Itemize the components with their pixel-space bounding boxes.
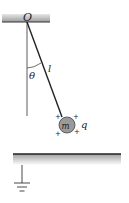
charge-label: q [81,119,87,130]
svg-text:+: + [55,113,61,121]
grounded-plate [13,154,121,165]
svg-text:+: + [74,128,80,136]
length-label: l [48,63,51,74]
pendulum-diagram: O θ l m + + + + q [0,0,129,203]
mass-label: m [62,121,70,131]
angle-arc [27,63,41,68]
ground-icon [14,165,30,191]
svg-text:+: + [73,113,79,121]
svg-text:+: + [55,130,61,138]
angle-label: θ [29,70,35,81]
pivot-label: O [23,11,32,24]
charged-ball: m + + + + [55,113,80,138]
